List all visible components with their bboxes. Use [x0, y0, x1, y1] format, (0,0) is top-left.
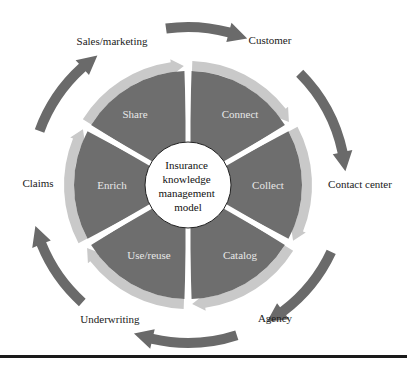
outer-label-sales-marketing: Sales/marketing: [77, 35, 148, 47]
bottom-rule: [0, 355, 407, 358]
outer-label-contact-center: Contact center: [328, 178, 392, 190]
segment-label-share: Share: [122, 108, 147, 120]
knowledge-cycle-diagram: Insurance knowledge management model Sha…: [0, 0, 407, 369]
outer-label-underwriting: Underwriting: [80, 313, 140, 325]
segment-label-enrich: Enrich: [97, 179, 127, 191]
outer-arrow-icon: [165, 22, 247, 42]
outer-arrow-icon: [134, 329, 238, 348]
segment-label-catalog: Catalog: [223, 249, 258, 261]
segment-label-collect: Collect: [252, 179, 284, 191]
segment-label-connect: Connect: [222, 108, 259, 120]
outer-label-agency: Agency: [258, 312, 293, 324]
center-circle: [145, 142, 231, 228]
segment-label-use-reuse: Use/reuse: [127, 249, 170, 261]
outer-label-claims: Claims: [22, 177, 53, 189]
outer-label-customer: Customer: [249, 34, 292, 46]
